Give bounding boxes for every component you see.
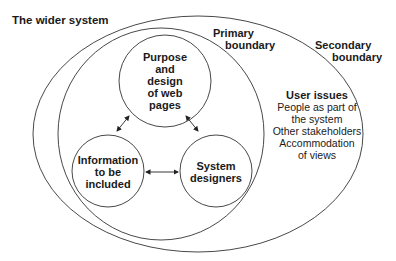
node-text: to be [68,166,148,178]
user-issue-line: the system [262,113,372,125]
node-text: designers [176,172,256,184]
secondary-boundary-label: Secondary boundary [315,39,382,63]
user-issue-line: Accommodation [262,137,372,149]
node-information: Information to be included [68,154,148,190]
node-designers: System designers [176,160,256,184]
node-text: Purpose [125,51,205,63]
secondary-boundary-line: boundary [315,51,382,63]
user-issues-block: User issues People as part of the system… [262,89,372,161]
secondary-boundary-line: Secondary [315,39,382,51]
primary-boundary-label: Primary boundary [213,27,275,51]
primary-boundary-line: boundary [213,39,275,51]
node-text: Information [68,154,148,166]
node-text: pages [125,99,205,111]
user-issue-line: of views [262,149,372,161]
node-purpose: Purpose and design of web pages [125,51,205,111]
user-issue-line: People as part of [262,101,372,113]
node-text: and [125,63,205,75]
user-issues-heading: User issues [262,89,372,101]
node-text: System [176,160,256,172]
node-text: included [68,178,148,190]
wider-system-title: The wider system [12,14,109,26]
primary-boundary-line: Primary [213,27,275,39]
user-issue-line: Other stakeholders [262,125,372,137]
node-text: of web [125,87,205,99]
arrow-purpose-information [117,116,129,131]
node-text: design [125,75,205,87]
